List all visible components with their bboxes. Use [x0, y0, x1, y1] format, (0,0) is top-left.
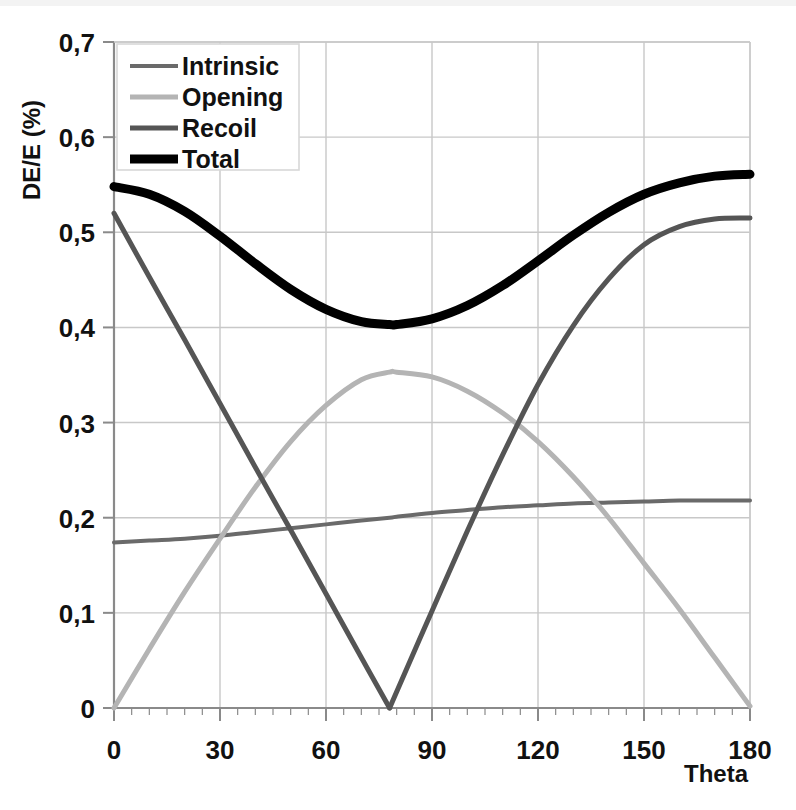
y-tick-label: 0 — [81, 694, 95, 724]
x-tick-label: 150 — [622, 735, 665, 765]
x-tick-label: 0 — [107, 735, 121, 765]
chart-figure: 00,10,20,30,40,50,60,7 0306090120150180 … — [0, 0, 796, 810]
y-axis-title: DE/E (%) — [18, 100, 45, 200]
y-tick-label: 0,1 — [59, 599, 95, 629]
line-chart: 00,10,20,30,40,50,60,7 0306090120150180 … — [0, 0, 796, 810]
x-tick-label: 90 — [418, 735, 447, 765]
legend-label-total: Total — [182, 145, 240, 173]
x-tick-label: 30 — [206, 735, 235, 765]
legend-label-opening: Opening — [182, 83, 283, 111]
y-tick-label: 0,5 — [59, 218, 95, 248]
x-tick-label: 60 — [312, 735, 341, 765]
y-tick-label: 0,7 — [59, 28, 95, 58]
legend-label-recoil: Recoil — [182, 114, 257, 142]
y-tick-label: 0,4 — [59, 313, 96, 343]
legend-label-intrinsic: Intrinsic — [182, 52, 279, 80]
y-tick-label: 0,3 — [59, 409, 95, 439]
x-tick-label: 120 — [516, 735, 559, 765]
scan-edge-artifact — [0, 0, 796, 6]
y-tick-label: 0,6 — [59, 123, 95, 153]
x-axis-title: Theta — [684, 760, 749, 787]
y-tick-label: 0,2 — [59, 504, 95, 534]
